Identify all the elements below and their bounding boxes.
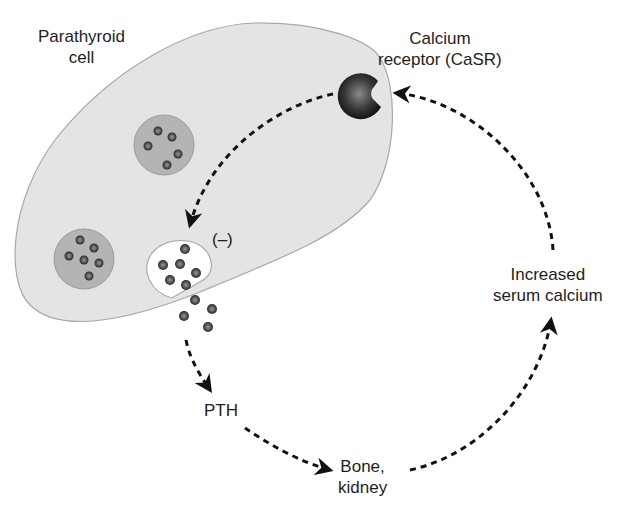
cell-label: Parathyroid cell xyxy=(38,26,125,68)
secretory-vesicle-lower xyxy=(54,229,114,289)
calcium-feedback-diagram xyxy=(0,0,631,514)
arrow-serum-calcium-to-receptor xyxy=(396,93,553,250)
inhibition-label: (–) xyxy=(212,229,233,250)
bone-kidney-label: Bone, kidney xyxy=(338,456,387,498)
arrow-pth-to-bone-kidney xyxy=(245,428,330,470)
secretory-vesicle-upper xyxy=(134,115,194,175)
arrow-bone-kidney-to-serum-calcium xyxy=(410,320,551,470)
serum-calcium-label: Increased serum calcium xyxy=(493,264,603,306)
receptor-label: Calcium receptor (CaSR) xyxy=(378,28,502,70)
arrow-secretion-to-pth xyxy=(186,340,210,390)
pth-label: PTH xyxy=(204,400,238,421)
